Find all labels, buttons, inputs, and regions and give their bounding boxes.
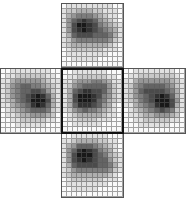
- patch-bottom: [61, 133, 124, 198]
- grid-cell: [117, 127, 122, 132]
- grid-cell: [118, 62, 123, 67]
- patch-top: [61, 3, 124, 68]
- patch-center: [61, 68, 124, 134]
- grid-cell: [180, 128, 185, 133]
- patch-left: [0, 68, 62, 134]
- grid-cell: [118, 192, 123, 197]
- patch-right: [123, 68, 186, 134]
